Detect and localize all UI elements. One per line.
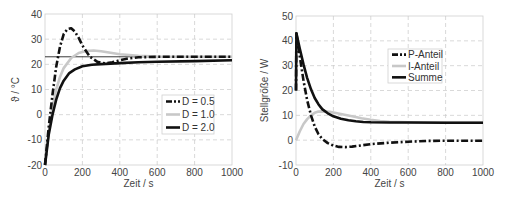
y-tick-label: 10 [282,110,294,121]
y-tick-label: 0 [36,109,42,120]
x-tick-label: 600 [149,167,166,178]
x-tick-label: 1000 [472,167,495,178]
y-axis-label: ϑ / °C [10,77,21,102]
x-tick-label: 400 [111,167,128,178]
legend-label: D = 0.5 [182,96,215,107]
legend-label: Summe [408,72,443,83]
y-tick-label: 0 [287,135,293,146]
x-tick-label: 0 [293,167,299,178]
x-tick-label: 800 [186,167,203,178]
chart-1: 02004006008001000-20-10010203040Zeit / s… [10,9,244,190]
y-tick-label: 40 [282,35,294,46]
x-axis-label: Zeit / s [123,178,153,189]
legend-label: D = 2.0 [182,122,215,133]
y-tick-label: 10 [31,84,43,95]
y-tick-label: 20 [282,85,294,96]
x-axis-label: Zeit / s [374,178,404,189]
x-tick-label: 800 [437,167,454,178]
legend-label: D = 1.0 [182,109,215,120]
x-tick-label: 200 [325,167,342,178]
x-tick-label: 0 [42,167,48,178]
figure-canvas: 02004006008001000-20-10010203040Zeit / s… [0,0,511,199]
y-tick-label: 30 [31,34,43,45]
x-tick-label: 400 [362,167,379,178]
y-tick-label: -20 [28,160,43,171]
x-tick-label: 1000 [221,167,244,178]
y-tick-label: 40 [31,9,43,20]
y-tick-label: 20 [31,59,43,70]
chart-2: 02004006008001000-1001020304050Zeit / sS… [259,11,495,190]
legend-label: I-Anteil [408,61,439,72]
y-axis-label: Stellgröße / W [259,58,270,122]
x-tick-label: 600 [400,167,417,178]
y-tick-label: -10 [28,134,43,145]
legend: P-AnteilI-AnteilSumme [388,49,443,83]
legend: D = 0.5D = 1.0D = 2.0 [162,95,215,134]
y-tick-label: 30 [282,60,294,71]
y-tick-label: 50 [282,11,294,22]
y-tick-label: -10 [279,160,294,171]
legend-label: P-Anteil [408,49,443,60]
x-tick-label: 200 [74,167,91,178]
